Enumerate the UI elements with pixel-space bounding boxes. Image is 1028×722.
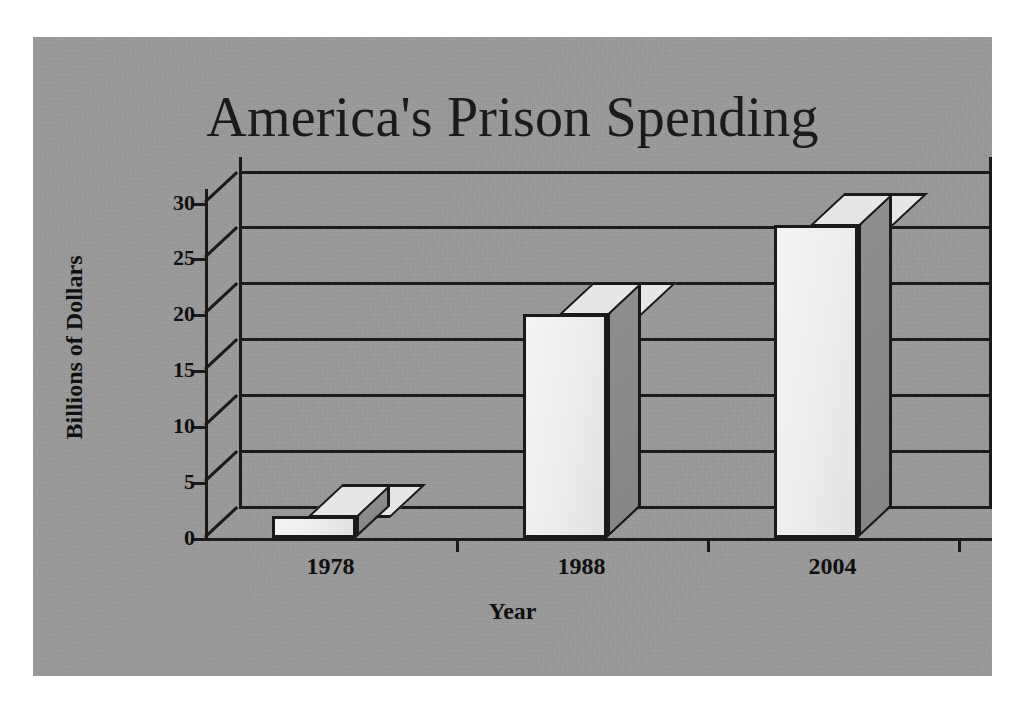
gridline-depth-connector — [205, 282, 239, 314]
x-axis-tickmark — [707, 538, 710, 552]
bar-front-face — [523, 314, 607, 538]
y-axis-title: Billions of Dollars — [61, 233, 88, 463]
bar-2004 — [774, 193, 892, 538]
y-axis-line-front — [205, 189, 208, 539]
y-axis-tick-label: 25 — [75, 245, 195, 271]
y-axis-tick-label: 10 — [75, 413, 195, 439]
y-axis-tick-label: 5 — [75, 469, 195, 495]
x-axis-title: Year — [33, 598, 992, 625]
bar-front-face — [774, 225, 858, 538]
chart-page: America's Prison Spending Billions of Do… — [0, 0, 1028, 722]
bar-1988 — [523, 282, 641, 538]
gridline-depth-connector — [205, 338, 239, 370]
bar-side-face — [858, 193, 892, 538]
x-axis-tick-label-2004: 2004 — [723, 553, 943, 580]
bar-1978 — [272, 484, 390, 538]
y-axis-line-back — [239, 157, 242, 507]
x-axis-line — [205, 538, 992, 541]
x-axis-tick-label-1988: 1988 — [472, 553, 692, 580]
x-axis-tickmark — [456, 538, 459, 552]
gridline-depth-connector — [205, 394, 239, 426]
x-axis-tickmark — [958, 538, 961, 552]
gridline-depth-connector — [205, 450, 239, 482]
gridline-depth-connector — [205, 506, 239, 538]
gridline — [239, 171, 992, 174]
chart-title: America's Prison Spending — [33, 85, 992, 149]
y-axis-tick-label: 0 — [75, 525, 195, 551]
gridline-depth-connector — [205, 226, 239, 258]
y-axis-tick-label: 20 — [75, 301, 195, 327]
plot-right-edge — [989, 157, 992, 507]
gridline-depth-connector — [205, 171, 239, 203]
x-axis-tick-label-1978: 1978 — [221, 553, 441, 580]
bar-side-face — [607, 283, 641, 538]
chart-panel: America's Prison Spending Billions of Do… — [33, 37, 992, 676]
y-axis-tick-label: 15 — [75, 357, 195, 383]
y-axis-tick-label: 30 — [75, 190, 195, 216]
bar-front-face — [272, 516, 356, 538]
